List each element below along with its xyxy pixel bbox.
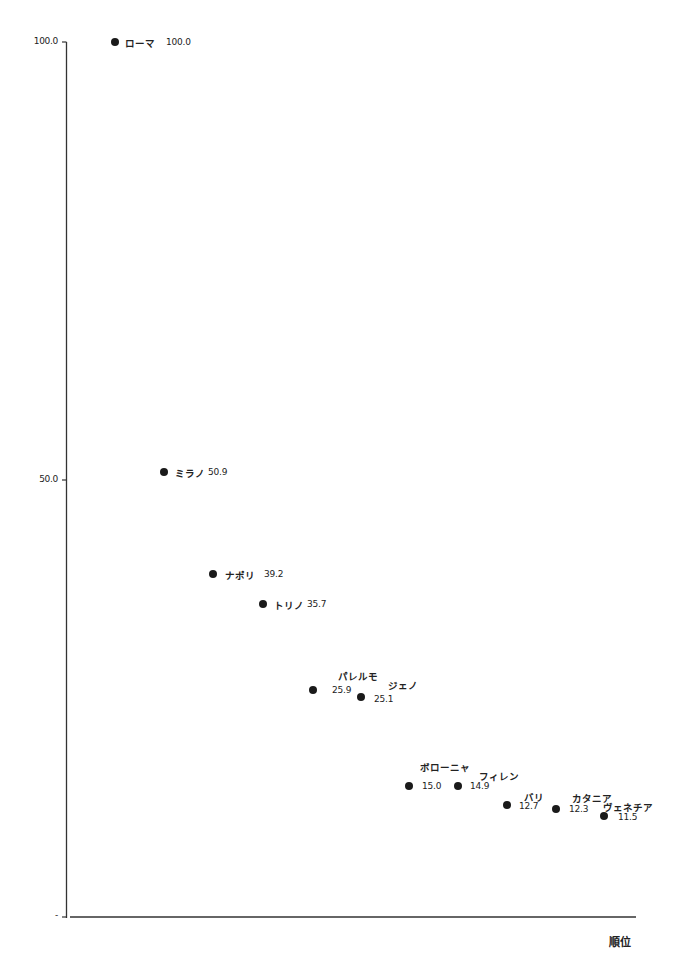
point-name-label: ナポリ xyxy=(225,568,255,582)
data-point-rank-8 xyxy=(454,782,462,790)
rank-scatter-chart: 100.0 50.0 - 順位 ローマ 100.0 ミラノ 50.9 ナポリ 3… xyxy=(0,0,676,969)
point-value-label: 15.0 xyxy=(422,781,441,791)
point-value-label: 35.7 xyxy=(307,599,326,609)
data-point-rank-4 xyxy=(259,600,267,608)
y-tick-label-0: - xyxy=(8,910,58,920)
data-point-rank-1 xyxy=(111,38,119,46)
x-axis-title: 順位 xyxy=(609,933,631,949)
point-value-label: 50.9 xyxy=(208,467,227,477)
y-tick-label-100: 100.0 xyxy=(8,36,58,46)
point-value-label: 25.9 xyxy=(332,685,351,695)
point-value-label: 11.5 xyxy=(618,812,637,822)
point-value-label: 12.3 xyxy=(569,804,588,814)
point-value-label: 100.0 xyxy=(166,37,191,47)
data-point-rank-6 xyxy=(357,693,365,701)
data-point-rank-2 xyxy=(160,468,168,476)
point-value-label: 14.9 xyxy=(470,781,489,791)
data-point-rank-3 xyxy=(209,570,217,578)
data-point-rank-9 xyxy=(503,801,511,809)
data-point-rank-5 xyxy=(309,686,317,694)
chart-axes xyxy=(0,0,676,969)
y-tick-label-50: 50.0 xyxy=(8,474,58,484)
point-value-label: 39.2 xyxy=(264,569,283,579)
data-point-rank-10 xyxy=(552,805,560,813)
point-name-label: ローマ xyxy=(125,36,155,50)
data-point-rank-7 xyxy=(405,782,413,790)
point-value-label: 12.7 xyxy=(519,801,538,811)
point-value-label: 25.1 xyxy=(374,694,393,704)
point-name-label: トリノ xyxy=(274,598,304,612)
point-name-label: ミラノ xyxy=(175,466,205,480)
point-name-label: ジェノ xyxy=(388,678,418,692)
point-name-label: ボローニャ xyxy=(420,760,470,774)
point-name-label: パレルモ xyxy=(338,669,378,683)
